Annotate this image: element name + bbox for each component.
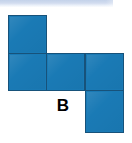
net-square-r2c3: [85, 53, 124, 91]
net-square-r2c1: [8, 53, 47, 91]
net-square-r3c3: [85, 90, 124, 133]
figure-canvas: B: [0, 0, 132, 143]
cube-net-diagram: [0, 0, 132, 143]
figure-label: B: [55, 96, 71, 115]
net-square-r2c2: [46, 53, 85, 91]
net-square-r1c1: [8, 15, 47, 54]
